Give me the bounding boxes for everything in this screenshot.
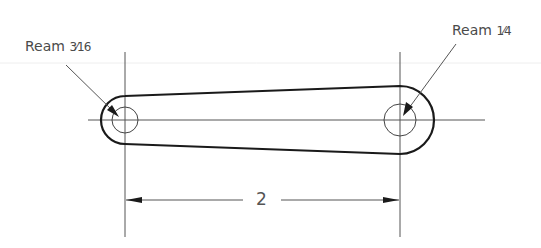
right-note-fraction: 1⁄4 (496, 24, 510, 38)
left-note-fraction: 3⁄16 (69, 40, 90, 54)
right-note-prefix: Ream (452, 22, 492, 38)
left-note-prefix: Ream (25, 38, 65, 54)
right-leader-line (409, 44, 456, 108)
dimension-arrowhead-right (383, 197, 399, 203)
right-hole-note: Ream 1⁄4 (452, 22, 511, 38)
dimension-arrowhead-left (126, 197, 142, 203)
left-leader-line (66, 65, 114, 112)
left-hole-note: Ream 3⁄16 (25, 38, 90, 54)
dimension-value: 2 (250, 189, 273, 209)
